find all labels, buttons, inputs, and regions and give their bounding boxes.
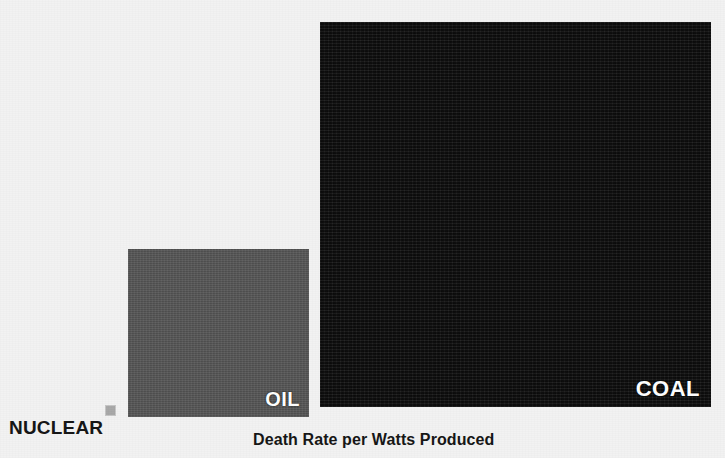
square-oil: OIL [128,249,309,417]
label-nuclear: NUCLEAR [9,418,103,437]
square-coal: COAL [320,22,711,407]
death-rate-square-chart: NUCLEAR OIL COAL Death Rate per Watts Pr… [0,0,725,458]
label-coal: COAL [636,378,700,400]
square-nuclear [106,406,115,415]
label-oil: OIL [265,389,300,409]
chart-caption: Death Rate per Watts Produced [253,432,494,448]
